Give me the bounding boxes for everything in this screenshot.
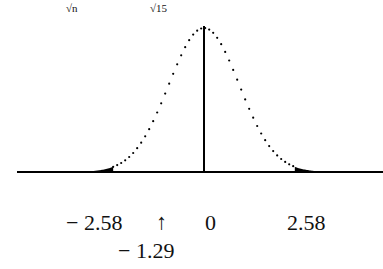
marked-value-label: − 1.29 <box>118 238 174 264</box>
zero-label: 0 <box>205 210 216 236</box>
pos-critical-label: 2.58 <box>287 210 326 236</box>
arrow-up-icon: ↑ <box>156 209 167 235</box>
normal-curve-diagram <box>0 0 383 269</box>
neg-critical-label: − 2.58 <box>66 210 122 236</box>
